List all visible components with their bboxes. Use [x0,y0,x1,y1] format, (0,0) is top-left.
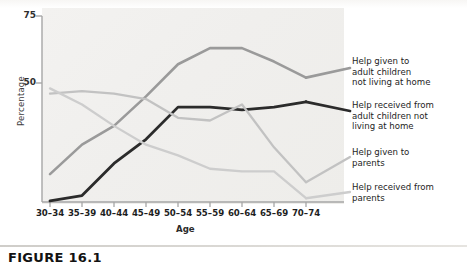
legend-label-line: Help received from [352,182,467,193]
series-line-2 [50,91,306,182]
legend-leader-line-3 [306,192,350,198]
caption-divider [0,245,467,247]
legend-leader-line-2 [306,157,350,182]
figure-caption: FIGURE 16.1 [8,250,102,265]
legend-entry-help-received-adult-children: Help received fromadult children notlivi… [352,100,467,132]
figure-container: 75 50 Percentage 30–3435–3940–4445–4950–… [0,0,467,266]
legend-label-line: parents [352,193,467,204]
legend-leader-line-1 [306,102,350,111]
legend-label-line: living at home [352,121,467,132]
x-tick-marks-group [50,202,306,207]
x-tick-label: 70–74 [285,208,327,218]
data-series-group [50,48,350,201]
legend-label-line: Help received from [352,100,467,111]
legend-leader-line-0 [306,68,350,78]
legend-label-line: Help given to [352,56,467,67]
legend-label-line: parents [352,158,467,169]
legend-entry-help-given-adult-children: Help given toadult childrennot living at… [352,56,467,88]
x-axis-label: Age [176,224,195,234]
legend-label-line: adult children not [352,111,467,122]
legend-label-line: Help given to [352,147,467,158]
legend-entry-help-given-parents: Help given toparents [352,147,467,168]
legend-entry-help-received-parents: Help received fromparents [352,182,467,203]
legend: Help given toadult childrennot living at… [352,0,467,230]
legend-label-line: adult children [352,67,467,78]
series-line-3 [50,88,306,198]
x-tick-labels: 30–3435–3940–4445–4950–5455–5960–6465–69… [42,208,344,224]
legend-label-line: not living at home [352,77,467,88]
